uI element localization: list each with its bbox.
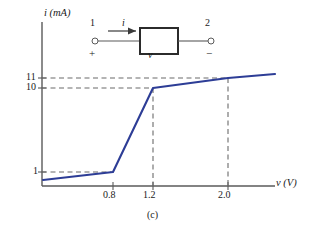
terminal-2-node	[208, 38, 214, 44]
voltage-label: v	[148, 50, 152, 60]
terminal-2-label: 2	[205, 18, 210, 28]
circuit-diagram	[92, 28, 214, 54]
x-tick-label-20: 2.0	[218, 190, 231, 200]
terminal-1-node	[92, 38, 98, 44]
tick-marks	[38, 78, 228, 190]
iv-characteristic-curve	[43, 74, 275, 180]
figure-caption: (c)	[147, 210, 158, 220]
x-tick-label-08: 0.8	[103, 190, 116, 200]
x-tick-label-12: 1.2	[143, 190, 156, 200]
y-tick-label-1: 1	[33, 166, 38, 176]
polarity-plus-label: +	[89, 48, 95, 59]
dashed-guides	[42, 78, 228, 186]
element-box	[140, 28, 178, 54]
x-axis-label: v (V)	[276, 178, 297, 189]
y-tick-label-10: 10	[26, 82, 36, 92]
terminal-1-label: 1	[90, 18, 95, 28]
current-label: i	[122, 18, 125, 28]
y-axis-label: i (mA)	[44, 8, 71, 19]
current-arrow-icon	[108, 28, 136, 35]
figure-canvas	[0, 0, 314, 235]
polarity-minus-label: −	[206, 48, 212, 59]
